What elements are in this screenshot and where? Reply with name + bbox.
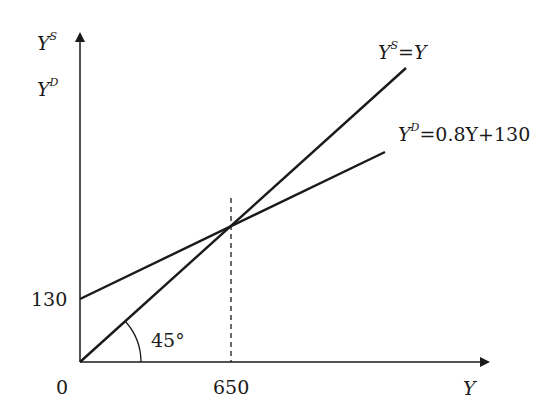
y-tick-130: 130 [31,290,67,309]
x-tick-650: 650 [213,378,249,397]
y-axis-label-supply: YS [37,34,57,53]
angle-label: 45° [151,331,185,350]
diagram-canvas [0,0,558,417]
supply-line-label: YS=Y [378,43,427,62]
angle-arc [125,321,141,362]
supply-line [80,68,406,362]
demand-line-label: YD=0.8Y+130 [398,125,530,144]
x-axis-label: Y [463,379,476,398]
demand-line [80,152,385,299]
origin-label: 0 [56,378,68,397]
y-axis-label-demand: YD [37,80,58,99]
